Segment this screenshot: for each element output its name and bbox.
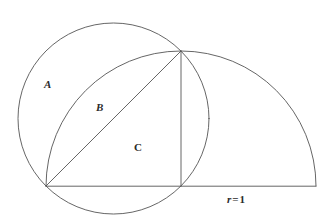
radius-value: 1 — [239, 193, 246, 205]
region-label-c: C — [134, 142, 142, 153]
region-label-a: A — [44, 79, 52, 90]
radius-equals-sign: = — [231, 193, 238, 205]
region-label-b: B — [96, 102, 104, 113]
radius-annotation: r=1 — [227, 194, 245, 205]
hypotenuse-chord-line — [46, 51, 181, 186]
diagram-canvas — [0, 0, 321, 217]
geometry-diagram: A B C r=1 — [0, 0, 321, 217]
